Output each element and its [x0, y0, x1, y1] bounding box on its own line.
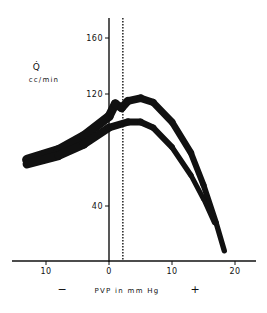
curve-segment: [153, 128, 172, 148]
y-tick-label: 160: [86, 34, 103, 43]
y-label-units: cc/min: [29, 76, 59, 84]
curve-segment: [216, 223, 224, 251]
x-tick-label: 10: [40, 267, 51, 276]
x-label-minus: −: [57, 283, 66, 296]
curve-segment: [153, 102, 172, 122]
x-ticks: 1001020: [40, 261, 240, 276]
x-tick-label: 20: [229, 267, 240, 276]
x-tick-label: 10: [166, 267, 177, 276]
y-label-symbol: Q̇: [33, 61, 41, 72]
x-label-plus: +: [190, 283, 199, 296]
x-tick-label: 0: [106, 267, 112, 276]
x-label: PVP in mm Hg: [94, 287, 159, 295]
y-tick-label: 40: [92, 202, 103, 211]
pvp-flow-chart: 40120160 1001020 Q̇ cc/min − PVP in mm H…: [0, 0, 267, 313]
data-curves: [27, 98, 224, 251]
y-tick-label: 120: [86, 90, 103, 99]
